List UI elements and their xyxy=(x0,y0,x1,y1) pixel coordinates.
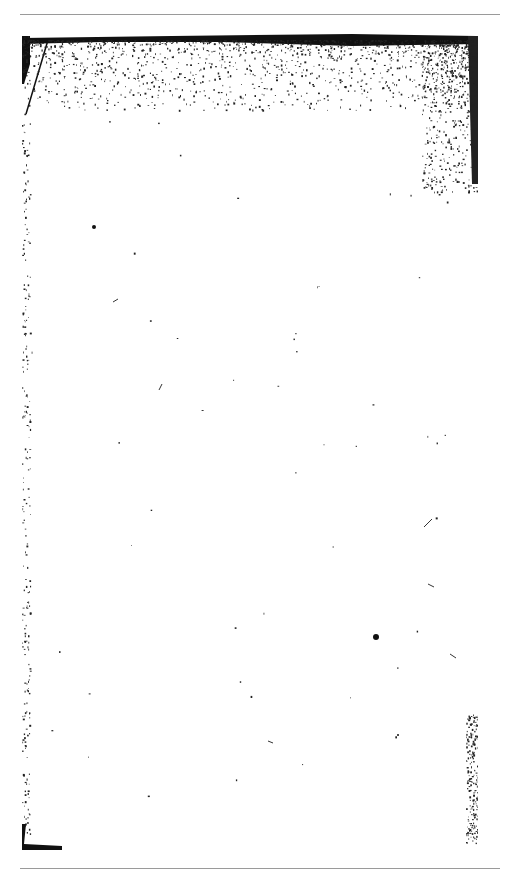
scanned-page xyxy=(22,34,478,852)
scan-noise xyxy=(22,34,478,852)
top-rule xyxy=(20,14,500,15)
bottom-rule xyxy=(20,868,500,869)
